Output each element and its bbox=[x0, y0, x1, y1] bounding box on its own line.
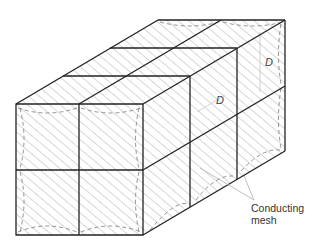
callout-line-1: Conducting bbox=[251, 202, 304, 214]
callout-label: Conducting mesh bbox=[251, 202, 304, 226]
dimension-label-side: D bbox=[265, 56, 273, 68]
dimension-label-top: D bbox=[216, 94, 224, 106]
callout-line-2: mesh bbox=[251, 214, 304, 226]
